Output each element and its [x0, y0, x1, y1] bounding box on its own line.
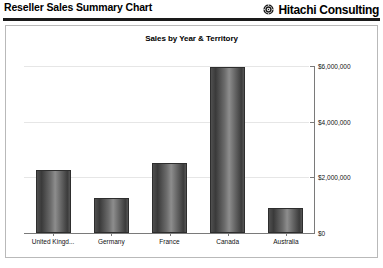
- brand: Hitachi Consulting: [263, 1, 379, 19]
- bar-series: [24, 52, 315, 233]
- bar[interactable]: [210, 67, 245, 233]
- y-axis-label: $2,000,000: [318, 174, 351, 181]
- x-axis-tick: [228, 233, 229, 236]
- x-axis-label: Australia: [257, 238, 315, 246]
- x-axis-label: France: [140, 238, 198, 246]
- brand-name: Hitachi Consulting: [278, 4, 379, 17]
- y-axis-tick: [310, 122, 315, 123]
- x-axis-tick: [111, 233, 112, 236]
- chart-title: Sales by Year & Territory: [6, 34, 377, 43]
- bar[interactable]: [152, 163, 187, 233]
- bar[interactable]: [36, 170, 71, 233]
- x-axis-label: United Kingd...: [24, 238, 82, 246]
- y-axis-tick: [310, 233, 315, 234]
- y-axis-label: $4,000,000: [318, 118, 351, 125]
- page-title: Reseller Sales Summary Chart: [4, 1, 152, 14]
- hitachi-logo-icon: [263, 1, 274, 19]
- bar[interactable]: [268, 208, 303, 233]
- y-axis-label: $6,000,000: [318, 63, 351, 70]
- y-axis-tick: [310, 177, 315, 178]
- y-axis-label: $0: [318, 230, 325, 237]
- x-axis-tick: [53, 233, 54, 236]
- x-axis-tick: [286, 233, 287, 236]
- header-divider: [3, 18, 380, 21]
- x-axis-tick: [170, 233, 171, 236]
- chart-panel: Sales by Year & Territory $0$2,000,000$4…: [5, 25, 378, 258]
- y-axis-tick: [310, 66, 315, 67]
- bar[interactable]: [94, 198, 129, 233]
- x-axis-label: Canada: [199, 238, 257, 246]
- x-axis-label: Germany: [82, 238, 140, 246]
